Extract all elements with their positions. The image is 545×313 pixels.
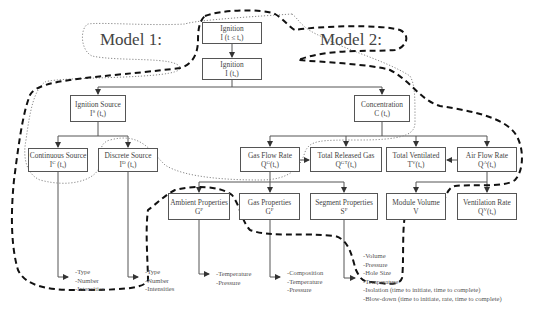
- node-title: Gas Flow Rate: [248, 151, 292, 160]
- node-module-volume: Module Volume V: [386, 193, 446, 220]
- node-title: Ignition: [220, 60, 243, 69]
- node-title: Air Flow Rate: [466, 151, 508, 160]
- node-ignition-source: Ignition Source IS (ts): [70, 95, 126, 122]
- node-symbol: SP: [341, 207, 348, 216]
- node-title: Gas Properties: [248, 198, 291, 207]
- node-ignition: Ignition I (ts): [202, 58, 262, 80]
- node-continuous-source: Continuous Source IC (ts): [28, 148, 88, 172]
- node-title: Ignition Source: [75, 100, 121, 109]
- node-symbol: QG(ts): [261, 160, 279, 169]
- node-symbol: TV(ts): [407, 160, 424, 169]
- node-concentration: Concentration C (ts): [354, 95, 410, 122]
- node-symbol: QA(ts): [478, 160, 496, 169]
- node-gas-properties: Gas Properties GP: [239, 193, 300, 220]
- gas-properties-attributes: -Composition -Temperature -Pressure: [287, 269, 323, 295]
- node-ambient-properties: Ambient Properties GP: [168, 193, 230, 220]
- node-ignition-pre: Ignition I (t ≤ ts): [202, 22, 262, 44]
- node-segment-properties: Segment Properties SP: [310, 193, 378, 220]
- model-1-label: Model 1:: [100, 30, 162, 50]
- node-total-released-gas: Total Released Gas QGT(ts): [310, 147, 382, 172]
- node-discrete-source: Discrete Source ID (ts): [98, 148, 158, 172]
- ambient-properties-attributes: -Temperature -Pressure: [216, 270, 251, 287]
- node-title: Segment Properties: [315, 198, 373, 207]
- node-title: Concentration: [361, 100, 403, 109]
- node-symbol: C (ts): [374, 109, 390, 118]
- node-title: Ventilation Rate: [463, 198, 511, 207]
- node-air-flow-rate: Air Flow Rate QA(ts): [457, 147, 517, 172]
- node-title: Module Volume: [392, 198, 440, 207]
- segment-properties-attributes: -Volume -Pressure -Hole Size -Temperatur…: [363, 252, 502, 303]
- node-symbol: GP: [195, 207, 203, 216]
- continuous-source-attributes: -Type -Number -Intensities: [75, 268, 104, 294]
- node-symbol: IS (ts): [90, 109, 106, 118]
- node-symbol: I (t ≤ ts): [220, 33, 243, 42]
- node-symbol: QV(ts): [478, 207, 496, 216]
- node-symbol: QGT(ts): [336, 160, 357, 169]
- node-ventilation-rate: Ventilation Rate QV(ts): [457, 193, 517, 220]
- node-title: Continuous Source: [30, 151, 86, 160]
- node-symbol: GP: [265, 207, 273, 216]
- node-total-ventilated: Total Ventilated TV(ts): [386, 147, 446, 172]
- node-symbol: IC (ts): [50, 160, 67, 169]
- node-gas-flow-rate: Gas Flow Rate QG(ts): [240, 147, 300, 172]
- node-symbol: ID (ts): [120, 160, 137, 169]
- discrete-source-attributes: -Type -Number -Intensities: [145, 268, 174, 294]
- node-title: Ambient Properties: [170, 198, 228, 207]
- node-title: Total Released Gas: [318, 151, 375, 160]
- node-symbol: V: [413, 207, 418, 216]
- model-2-label: Model 2:: [320, 30, 382, 50]
- node-symbol: I (ts): [225, 69, 238, 78]
- node-title: Ignition: [220, 24, 243, 33]
- node-title: Total Ventilated: [393, 151, 440, 160]
- node-title: Discrete Source: [105, 151, 152, 160]
